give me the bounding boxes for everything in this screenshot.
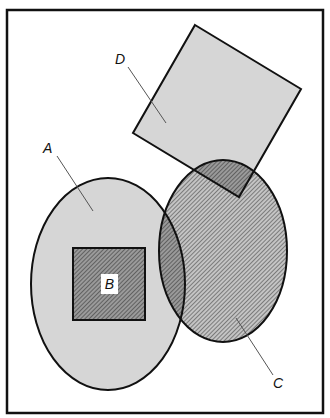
set-diagram: [0, 0, 330, 418]
label-c: C: [273, 376, 283, 390]
label-d: D: [115, 52, 125, 66]
label-a: A: [43, 141, 52, 155]
label-b: B: [101, 274, 118, 294]
